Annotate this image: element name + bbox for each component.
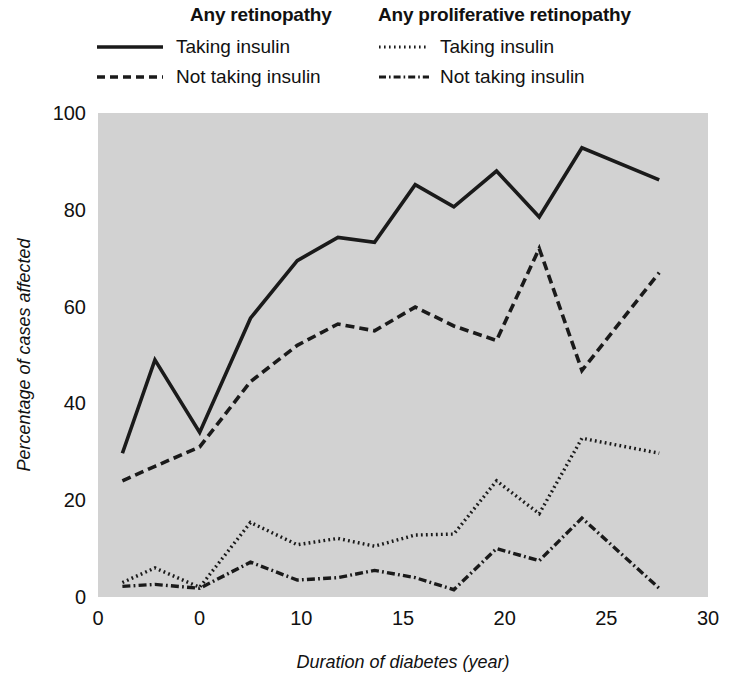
x-tick-label: 10 xyxy=(290,607,312,629)
y-tick-label: 0 xyxy=(75,586,86,608)
y-axis-title: Percentage of cases affected xyxy=(14,237,34,471)
retinopathy-duration-chart: Any retinopathy Taking insulin Not takin… xyxy=(0,0,733,683)
x-tick-label: 20 xyxy=(494,607,516,629)
x-tick-label: 15 xyxy=(392,607,414,629)
y-tick-label: 40 xyxy=(64,392,86,414)
y-tick-label: 60 xyxy=(64,296,86,318)
x-tick-label: 30 xyxy=(697,607,719,629)
y-tick-label: 80 xyxy=(64,199,86,221)
y-tick-label: 100 xyxy=(53,102,86,124)
y-tick-label: 20 xyxy=(64,489,86,511)
x-tick-label: 0 xyxy=(194,607,205,629)
x-tick-label: 0 xyxy=(92,607,103,629)
x-axis-tick-labels: 001015202530 xyxy=(92,607,719,629)
plot-area-svg: 001015202530 020406080100 Duration of di… xyxy=(0,0,733,683)
plot-background xyxy=(98,113,708,597)
x-tick-label: 25 xyxy=(595,607,617,629)
x-axis-title: Duration of diabetes (year) xyxy=(296,652,509,672)
y-axis-tick-labels: 020406080100 xyxy=(53,102,86,608)
